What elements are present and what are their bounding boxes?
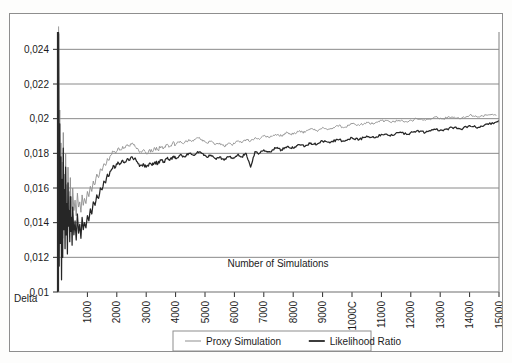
x-tick-label: 2000 (111, 301, 122, 324)
chart-legend: Proxy SimulationLikelihood Ratio (173, 331, 401, 351)
y-tick-label: 0,022 (24, 79, 49, 90)
y-tick-label: 0,024 (24, 44, 49, 55)
x-tick-label: 5000 (200, 301, 211, 324)
x-tick-label: 11000 (376, 301, 387, 329)
y-tick-label: 0,018 (24, 148, 49, 159)
x-tick-label: 13000 (435, 301, 446, 329)
y-tick-labels-group: 0,010,0120,0140,0160,0180,020,0220,024 (24, 44, 49, 298)
x-tick-label: 14000 (464, 301, 475, 329)
series-line (59, 27, 496, 254)
x-tick-label: 1000C (347, 301, 358, 330)
x-axis-title: Number of Simulations (227, 258, 328, 269)
y-tick-label: 0,016 (24, 183, 49, 194)
x-tick-label: 1000 (82, 301, 93, 324)
chart-frame: 0,010,0120,0140,0160,0180,020,0220,024 1… (9, 13, 503, 352)
line-chart-canvas: 0,010,0120,0140,0160,0180,020,0220,024 1… (10, 14, 502, 351)
series-line (59, 34, 499, 280)
y-axis-title: Delta (14, 293, 38, 304)
x-tick-marks-group (87, 292, 499, 297)
x-tick-label: 7000 (258, 301, 269, 324)
y-tick-label: 0,02 (30, 113, 50, 124)
legend-label-1: Proxy Simulation (206, 336, 281, 347)
gridlines-group (58, 49, 499, 257)
x-tick-label: 15000 (494, 301, 503, 329)
legend-label-2: Likelihood Ratio (330, 336, 402, 347)
x-tick-label: 8000 (288, 301, 299, 324)
x-tick-label: 6000 (229, 301, 240, 324)
x-tick-label: 3000 (141, 301, 152, 324)
x-tick-label: 4000 (170, 301, 181, 324)
x-tick-label: 9000 (317, 301, 328, 324)
x-tick-labels-group: 1000200030004000500060007000800090001000… (82, 301, 502, 331)
y-tick-label: 0,014 (24, 217, 49, 228)
x-tick-label: 12000 (405, 301, 416, 329)
y-tick-label: 0,012 (24, 252, 49, 263)
chart-figure: 0,010,0120,0140,0160,0180,020,0220,024 1… (0, 0, 512, 363)
